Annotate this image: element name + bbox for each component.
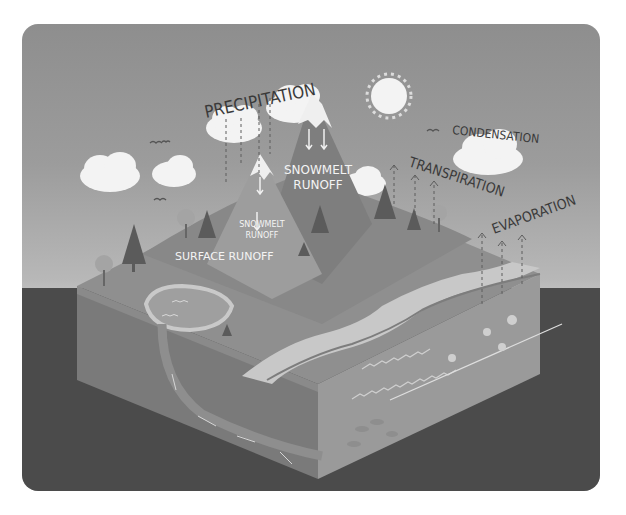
label-surface-runoff: SURFACE RUNOFF (175, 250, 274, 263)
label-evaporation: EVAPORATION (490, 192, 578, 237)
cloud-icon (152, 155, 196, 187)
label-snowmelt-small: SNOWMELT (239, 220, 285, 229)
label-snowmelt-large: SNOWMELT (284, 163, 353, 177)
water-cycle-card: PRECIPITATION CONDENSATION TRANSPIRATION… (22, 24, 600, 491)
cloud-icon (80, 152, 140, 192)
water-cycle-illustration: PRECIPITATION CONDENSATION TRANSPIRATION… (22, 24, 600, 491)
label-runoff-large: RUNOFF (293, 178, 342, 192)
lake (146, 286, 232, 330)
sun-icon (367, 74, 411, 118)
label-runoff-small: RUNOFF (246, 231, 279, 240)
stray-mark (603, 447, 607, 469)
